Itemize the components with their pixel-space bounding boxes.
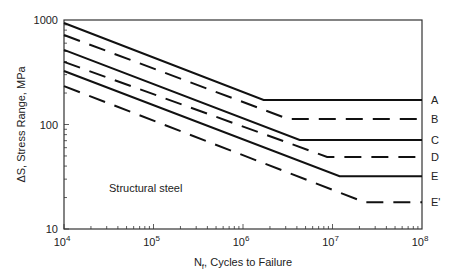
y-tick-label: 100: [40, 119, 58, 131]
x-tick-label: 105: [143, 234, 160, 248]
x-tick-label: 106: [233, 234, 250, 248]
annotation-structural-steel: Structural steel: [109, 182, 182, 194]
x-tick-label: 107: [322, 234, 339, 248]
y-tick-label: 1000: [34, 14, 58, 26]
curve-label: C: [431, 134, 439, 146]
curves: ABCDEE': [64, 23, 440, 208]
plot-frame: [64, 20, 422, 229]
curve-label: E: [431, 170, 438, 182]
x-axis-title: Nf, Cycles to Failure: [194, 256, 292, 271]
curve-label: B: [431, 113, 438, 125]
curve-e: [64, 71, 422, 176]
curve-d: [64, 62, 422, 157]
curve-label: E': [431, 196, 440, 208]
curve-label: A: [431, 94, 439, 106]
x-tick-label: 104: [54, 234, 71, 248]
curve-a: [64, 23, 422, 100]
sn-curve-chart: 104105106107108100010010Nf, Cycles to Fa…: [0, 0, 460, 274]
y-axis-title: ΔS, Stress Range, MPa: [15, 66, 27, 183]
x-tick-label: 108: [412, 234, 429, 248]
y-tick-label: 10: [46, 223, 58, 235]
curve-label: D: [431, 151, 439, 163]
x-axis: 104105106107108: [54, 224, 429, 248]
